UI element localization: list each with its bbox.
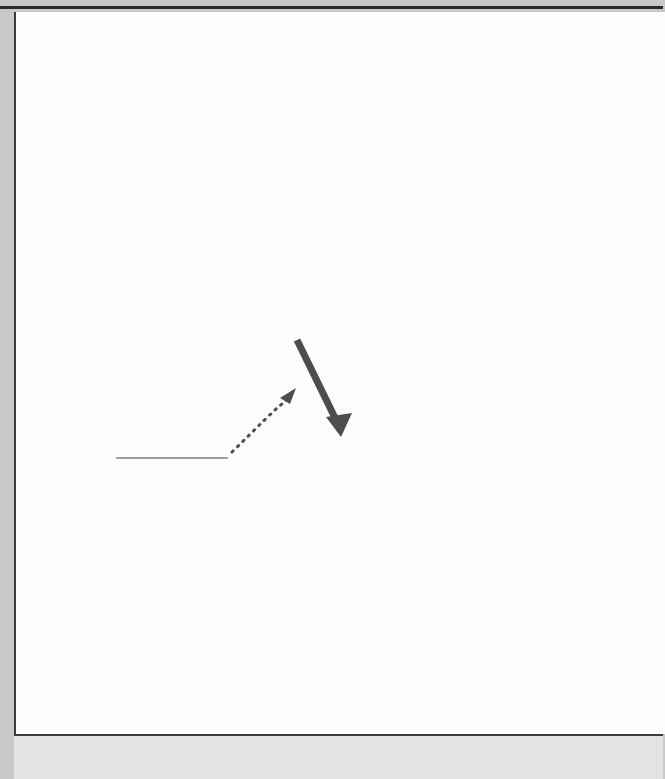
callout-rule (116, 457, 228, 459)
figure-panel (14, 12, 665, 734)
footer-band (14, 736, 663, 779)
top-divider (0, 6, 663, 9)
callout-average-increase (116, 457, 228, 463)
